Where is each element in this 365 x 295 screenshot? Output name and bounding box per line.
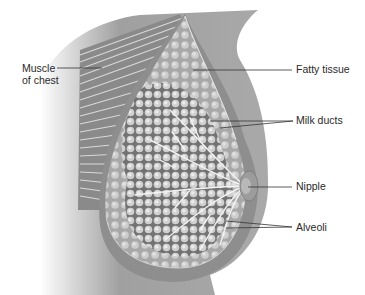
label-nipple: Nipple	[296, 180, 326, 192]
label-muscle-line2: of chest	[22, 74, 59, 86]
label-muscle-of-chest: Muscle of chest	[22, 62, 59, 86]
anatomy-illustration	[0, 0, 365, 295]
nipple-illustration	[240, 171, 258, 201]
label-fatty-tissue: Fatty tissue	[296, 63, 350, 75]
label-muscle-line1: Muscle	[22, 62, 59, 74]
breast-anatomy-diagram: Muscle of chest Fatty tissue Milk ducts …	[0, 0, 365, 295]
label-alveoli: Alveoli	[296, 221, 327, 233]
label-milk-ducts: Milk ducts	[296, 114, 343, 126]
